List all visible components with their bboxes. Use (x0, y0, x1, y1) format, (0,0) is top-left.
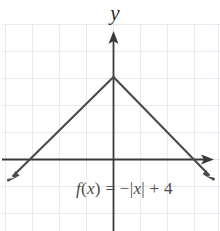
graph-figure: y f(x) = −|x| + 4 (0, 0, 220, 231)
equation-constant: 4 (164, 179, 173, 198)
equation-plus-sign: + (145, 179, 164, 198)
equation-minus-sign: − (120, 179, 130, 198)
y-axis-label: y (104, 0, 126, 28)
equation-equals-sign: = (101, 179, 120, 198)
function-equation-label: f(x) = −|x| + 4 (76, 179, 173, 199)
equation-variable: x (87, 179, 95, 198)
